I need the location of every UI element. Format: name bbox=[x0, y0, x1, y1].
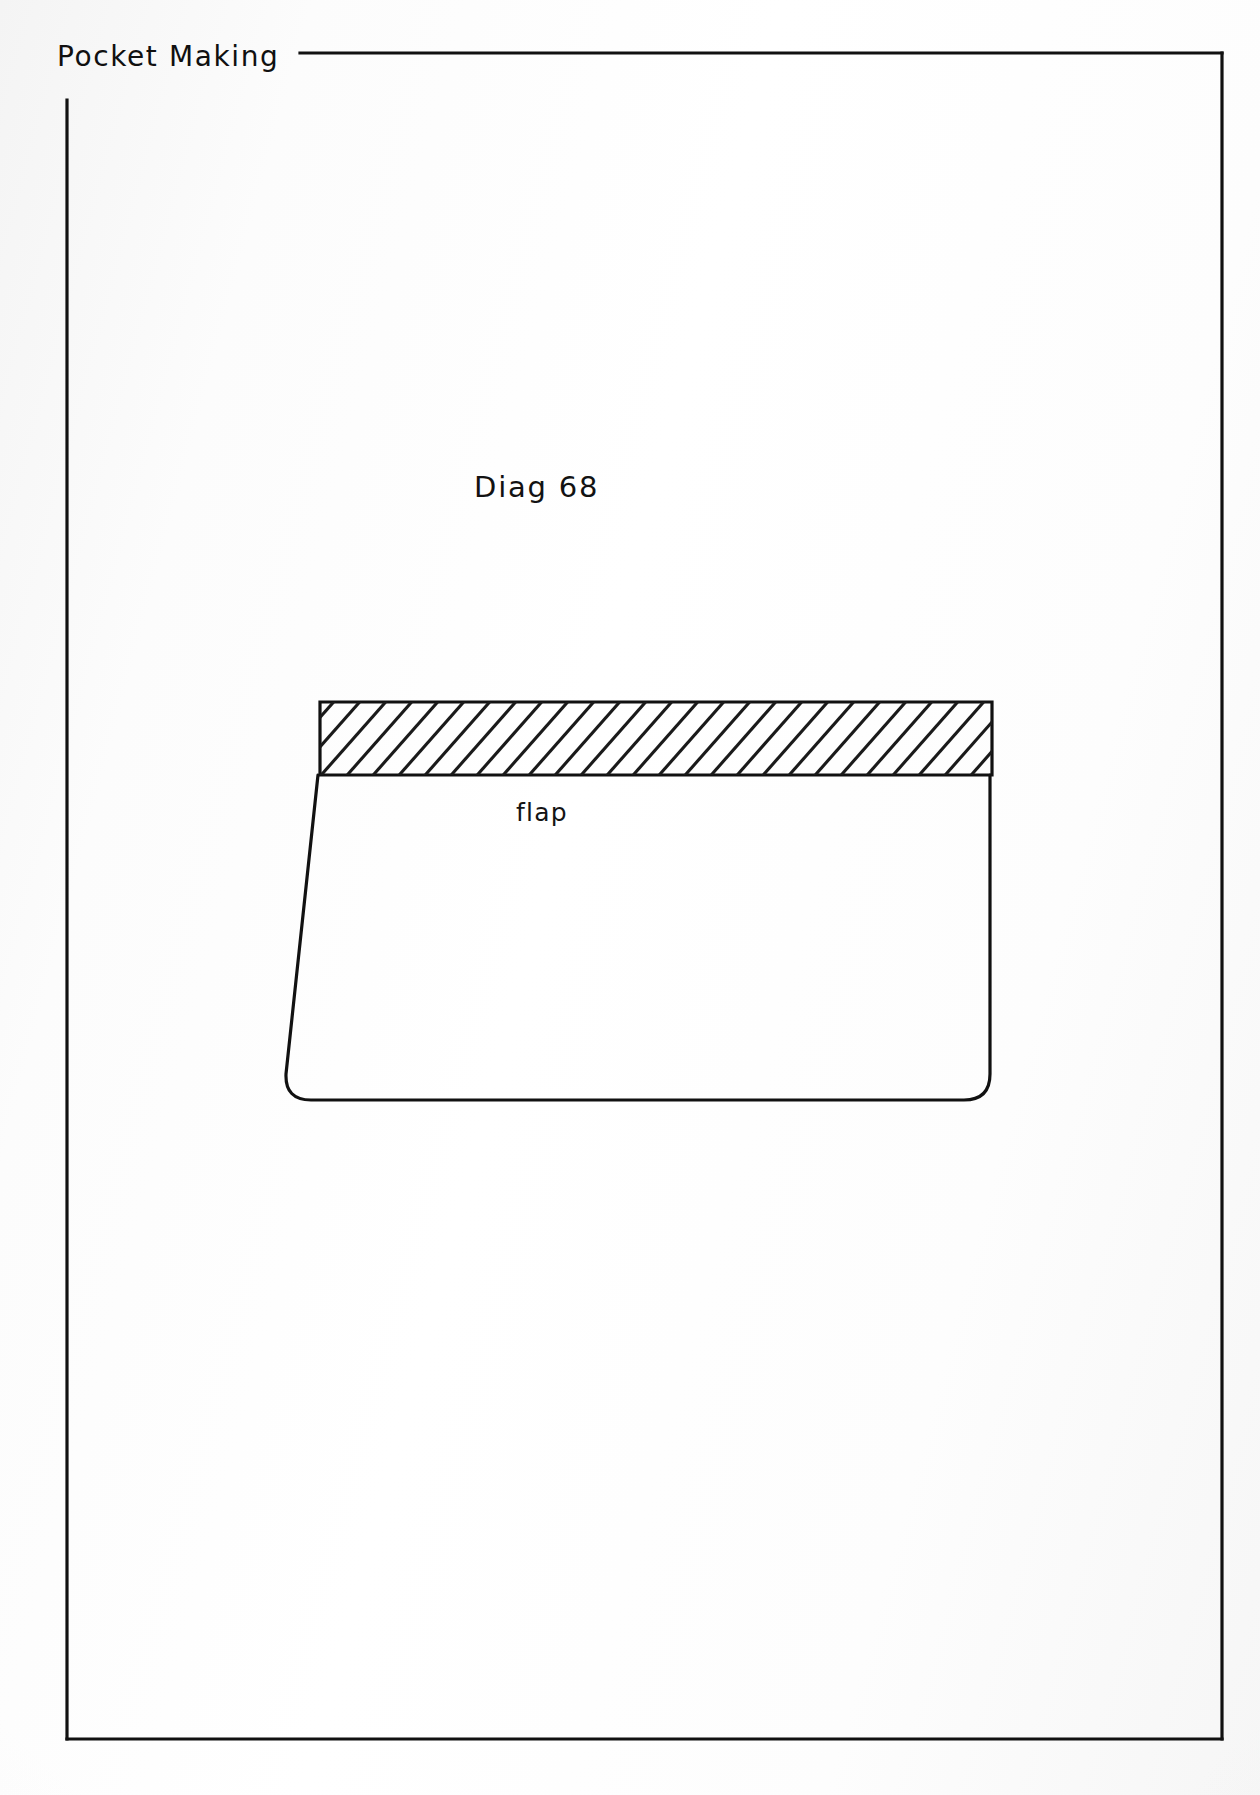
flap-body-outline bbox=[286, 775, 990, 1100]
hatched-band-outline bbox=[320, 702, 992, 775]
flap-diagram-layer bbox=[0, 0, 1260, 1795]
document-page: Pocket Making Diag 68 bbox=[0, 0, 1260, 1795]
flap-caption: flap bbox=[516, 798, 568, 827]
